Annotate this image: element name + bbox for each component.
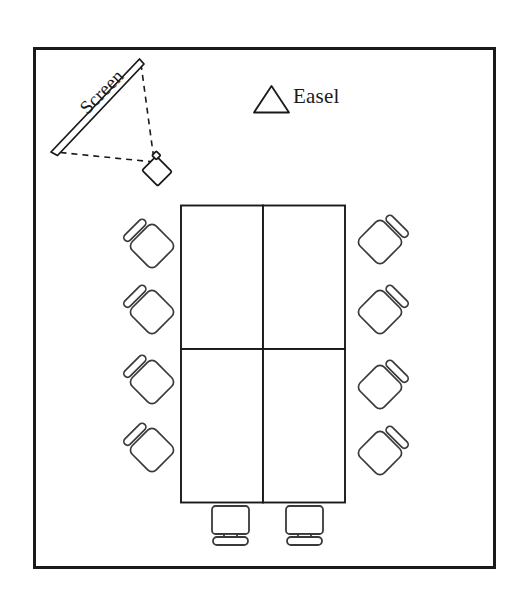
monitor-right [286,506,323,545]
floorplan-canvas [0,0,514,598]
chair-right-4 [356,422,411,477]
projector-icon [140,151,175,186]
chair-left-4 [121,419,176,474]
chair-right-3 [356,356,411,411]
conference-table [181,206,345,503]
room-floor-plan: Screen Easel [0,0,514,598]
easel-marker-icon [254,86,289,113]
chair-left-1 [121,215,176,270]
monitor-left [212,506,249,545]
chair-group-right [356,211,411,477]
chair-right-1 [356,211,411,266]
easel-label: Easel [293,86,339,107]
chair-left-3 [121,351,176,406]
chair-group-left [121,215,176,474]
chair-right-2 [356,281,411,336]
chair-left-2 [121,281,176,336]
